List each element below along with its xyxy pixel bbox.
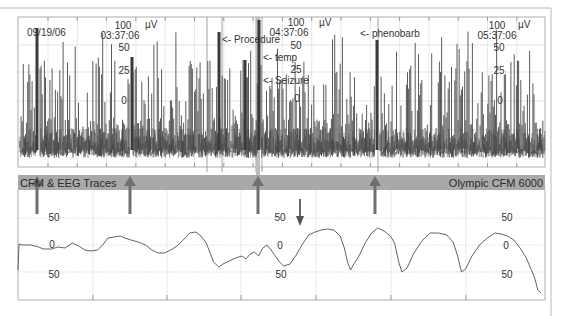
time-label: 03:37:06 [101,30,140,41]
lower-tick-label: 50 [501,212,512,223]
scale-25-label: 25 [290,64,301,75]
lower-eeg-trace [18,228,541,293]
scale-0-label: 0 [121,95,127,106]
scale-25-label: 25 [118,65,129,76]
lower-tick-label: 50 [48,212,59,223]
lower-tick-label: 50 [274,212,285,223]
annotation-procedure: <- Procedure [222,34,280,45]
unit-label: µV [145,19,157,30]
lower-tick-label: 50 [275,269,286,280]
band-title-right: Olympic CFM 6000 [449,176,543,190]
scale-50-label: 50 [493,42,504,53]
scale-50-label: 50 [118,42,129,53]
lower-tick-label: 0 [277,240,283,251]
lower-tick-label: 0 [49,239,55,250]
annotation-phenobarb: <- phenobarb [360,28,420,39]
lower-tick-label: 0 [503,240,509,251]
annotation-seizure: <- Seizure [263,75,309,86]
lower-tick-label: 50 [48,269,59,280]
annotation-temp: <- temp [263,52,297,63]
unit-label: µV [319,17,331,28]
scale-0-label: 0 [294,93,300,104]
band-title-left: CFM & EEG Traces [20,176,117,190]
lower-tick-label: 50 [501,269,512,280]
unit-label: µV [518,19,530,30]
scale-0-label: 0 [497,95,503,106]
date-label: 09/19/06 [27,27,66,38]
scale-25-label: 25 [493,65,504,76]
scale-50-label: 50 [290,40,301,51]
down-arrow-icon [296,199,304,226]
time-label: 05:37:06 [478,30,517,41]
